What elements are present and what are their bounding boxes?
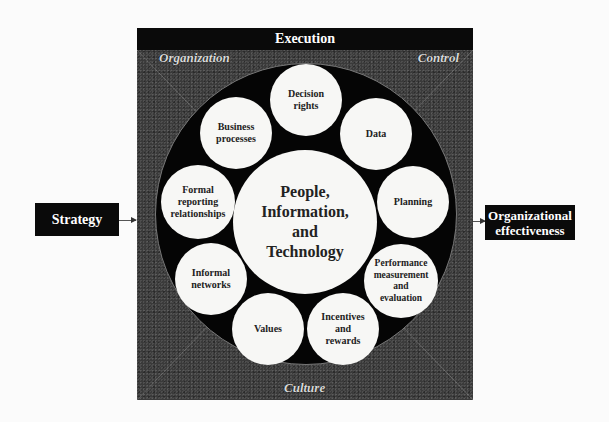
bubble-planning: Planning (377, 166, 449, 238)
strategy-arrow (119, 220, 136, 221)
bubble-values: Values (232, 293, 304, 365)
bubble-performance-measurement: Performance measurement and evaluation (364, 244, 438, 318)
organizational-effectiveness-box: Organizational effectiveness (485, 205, 575, 240)
bubble-informal-networks: Informal networks (175, 243, 247, 315)
organization-label: Organization (159, 50, 230, 66)
control-label: Control (418, 50, 459, 66)
bubble-decision-rights: Decision rights (270, 64, 342, 136)
bubble-incentives-rewards: Incentives and rewards (307, 293, 379, 365)
bubble-business-processes: Business processes (200, 97, 272, 169)
strategy-box: Strategy (35, 203, 119, 236)
center-people-information-technology: People, Information, and Technology (233, 150, 377, 294)
bubble-data: Data (340, 98, 412, 170)
execution-header: Execution (137, 28, 473, 50)
culture-label: Culture (284, 380, 325, 396)
bubble-formal-reporting: Formal reporting relationships (161, 165, 235, 239)
effectiveness-arrow (473, 221, 485, 222)
